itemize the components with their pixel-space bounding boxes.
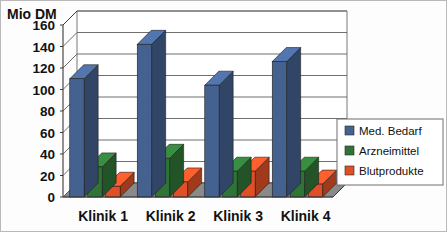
y-axis-title-text: Mio DM (7, 6, 57, 22)
y-tick-labels: 020406080100120140160 (32, 18, 63, 205)
x-category-label: Klinik 4 (281, 208, 331, 224)
bar (205, 71, 233, 197)
y-tick-label: 60 (40, 126, 55, 141)
y-tick-label: 120 (32, 61, 55, 76)
bar-chart-3d: 020406080100120140160 Klinik 1Klinik 2Kl… (1, 1, 447, 232)
x-category-labels: Klinik 1Klinik 2Klinik 3Klinik 4 (78, 208, 331, 224)
y-tick-label: 100 (32, 83, 55, 98)
y-tick-label: 40 (40, 147, 55, 162)
x-category-label: Klinik 2 (146, 208, 196, 224)
legend-label: Blutprodukte (359, 165, 424, 177)
legend-label: Arzneimittel (359, 145, 419, 157)
y-axis-title: Mio DM (7, 6, 57, 22)
bar (137, 30, 165, 197)
legend-swatch (345, 146, 354, 155)
bar (70, 65, 98, 197)
y-tick-label: 20 (40, 169, 55, 184)
chart-frame: 020406080100120140160 Klinik 1Klinik 2Kl… (0, 0, 447, 232)
x-category-label: Klinik 3 (213, 208, 263, 224)
legend-label: Med. Bedarf (359, 125, 422, 137)
y-tick-label: 80 (40, 104, 55, 119)
legend-swatch (345, 126, 354, 135)
y-tick-label: 0 (47, 190, 55, 205)
bar (272, 48, 300, 197)
chart-stage: 020406080100120140160 Klinik 1Klinik 2Kl… (1, 1, 446, 231)
legend-swatch (345, 166, 354, 175)
chart-legend: Med. BedarfArzneimittelBlutprodukte (337, 119, 443, 185)
x-category-label: Klinik 1 (78, 208, 128, 224)
y-tick-label: 140 (32, 40, 55, 55)
